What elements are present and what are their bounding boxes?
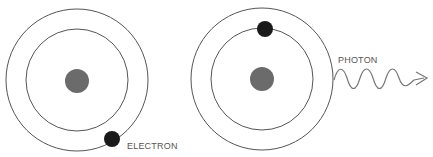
electron (257, 21, 273, 37)
photon-wave-icon (334, 69, 424, 89)
atom-left: ELECTRON (6, 9, 178, 151)
electron-label: ELECTRON (127, 141, 178, 151)
photon: PHOTON (334, 55, 427, 89)
nucleus (65, 69, 89, 93)
atom-photon-emission-diagram: ELECTRON PHOTON (0, 0, 433, 157)
electron (104, 131, 120, 147)
atom-right (191, 8, 333, 150)
photon-label: PHOTON (338, 55, 378, 65)
nucleus (250, 67, 274, 91)
